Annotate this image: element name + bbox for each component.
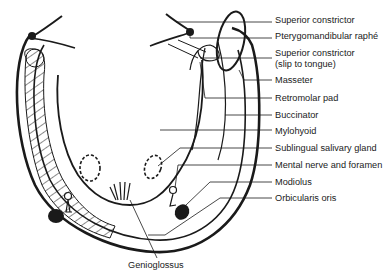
label-modiolus: Modiolus [275,177,312,187]
label-pterygomandibular-raphe: Pterygomandibular raphé [275,31,378,41]
modiolus-left [48,209,64,223]
label-slip-to-tongue: (slip to tongue) [275,59,336,69]
label-superior-constrictor: Superior constrictor [275,15,355,25]
sublingual-gland-right [141,153,164,181]
mental-nerve-right [170,187,177,207]
label-mental-nerve-foramen: Mental nerve and foramen [275,160,382,170]
label-buccinator: Buccinator [275,110,318,120]
label-genioglossus: Genioglossus [128,260,184,270]
label-sublingual-salivary-gland: Sublingual salivary gland [275,143,377,153]
label-retromolar-pad: Retromolar pad [275,93,338,103]
label-mylohyoid: Mylohyoid [275,126,316,136]
label-masseter: Masseter [275,75,313,85]
sublingual-gland-left [80,155,100,181]
masseter-shape [212,9,250,73]
label-orbicularis-oris: Orbicularis oris [275,193,337,203]
raphe-node-left [28,32,36,40]
genioglossus-fibres [110,182,130,200]
label-superior-constrictor-slip: Superior constrictor [275,48,355,58]
anatomy-diagram: Superior constrictor Pterygomandibular r… [0,0,392,271]
